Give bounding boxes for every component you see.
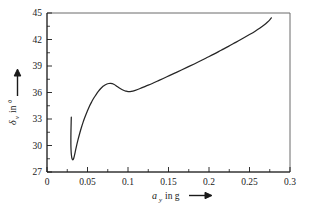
y-axis-title-rest: in °	[8, 99, 18, 113]
x-tick-label: 0.15	[160, 177, 177, 187]
x-axis-title-symbol: a	[152, 190, 157, 201]
x-tick-label: 0.25	[241, 177, 258, 187]
x-tick-label: 0.2	[203, 177, 215, 187]
x-tick-label: 0.3	[284, 177, 296, 187]
y-tick-label: 27	[33, 167, 43, 177]
x-axis-title-rest: in g	[165, 191, 180, 201]
y-tick-label: 39	[33, 61, 43, 71]
y-tick-label: 45	[33, 8, 43, 18]
y-tick-label: 42	[33, 35, 43, 45]
y-axis-title-symbol: δ	[7, 120, 18, 125]
y-tick-label: 33	[33, 114, 43, 124]
y-tick-label: 36	[33, 88, 43, 98]
x-tick-label: 0.1	[122, 177, 134, 187]
x-tick-label: 0	[45, 177, 50, 187]
x-tick-label: 0.05	[79, 177, 96, 187]
line-chart: 00.050.10.150.20.250.3 27303336394245 a …	[0, 0, 311, 211]
y-tick-label: 30	[33, 141, 43, 151]
chart-figure: 00.050.10.150.20.250.3 27303336394245 a …	[0, 0, 311, 211]
